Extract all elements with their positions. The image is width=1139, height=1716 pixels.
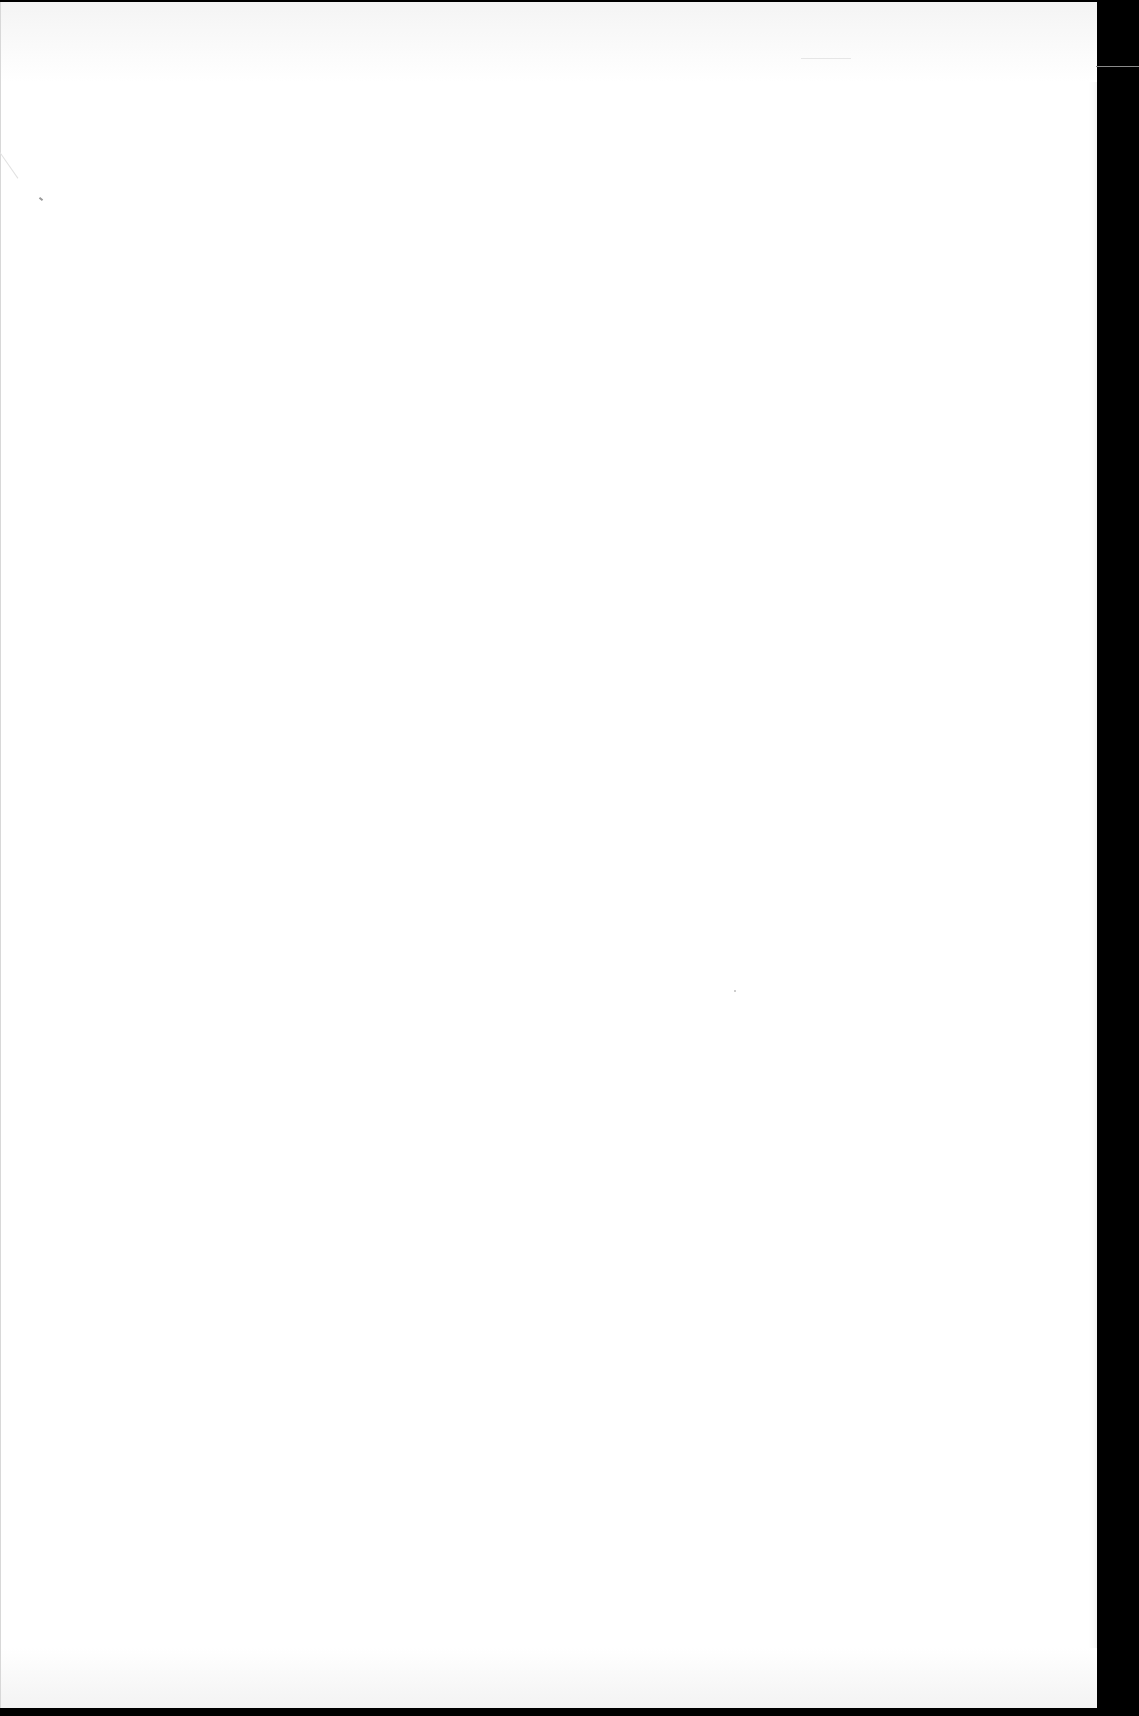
scan-dot [734, 990, 736, 992]
bleed-through-line [801, 58, 851, 59]
top-scan-shading [1, 2, 1097, 82]
scanned-blank-page [0, 2, 1097, 1708]
scanner-edge-line [1096, 66, 1139, 67]
bottom-scan-shading [1, 1648, 1097, 1708]
scan-speck [39, 197, 43, 201]
scan-streak [0, 145, 18, 178]
